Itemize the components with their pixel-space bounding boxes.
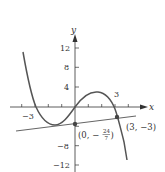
point-a-label-den: 7: [105, 135, 109, 141]
tick-label-neg3: −3: [22, 112, 34, 121]
tick-label-8: 8: [64, 63, 69, 72]
x-axis-label: x: [149, 102, 154, 112]
tick-label-neg12: −12: [53, 161, 70, 170]
point-b-label: (3, −3): [126, 122, 156, 132]
point-a-label-prefix: (0, −: [78, 130, 99, 140]
point-tangency: [115, 115, 119, 119]
tick-label-neg8: −8: [57, 142, 69, 151]
y-axis-arrow-icon: [73, 34, 78, 42]
tick-label-3: 3: [114, 90, 119, 99]
y-axis-label: y: [70, 25, 77, 35]
tick-label-12: 12: [60, 44, 70, 53]
point-a-label-suffix: ): [111, 130, 114, 140]
x-axis-arrow-icon: [140, 105, 148, 110]
function-graph: y x 12 8 4 −8 −12 −3 3 (0, − 24 7 ) (3, …: [0, 0, 165, 172]
tick-label-4: 4: [64, 83, 69, 92]
point-y-intercept: [73, 122, 77, 126]
point-a-label-num: 24: [103, 128, 110, 134]
